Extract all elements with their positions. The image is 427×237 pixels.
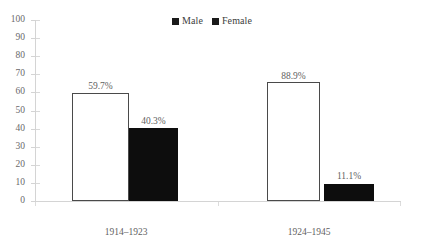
y-tick-inner-30 (36, 147, 40, 148)
y-tick-inner-60 (36, 92, 40, 93)
bar-label-female-1924-1945: 11.1% (337, 172, 361, 182)
category-separator-2 (218, 202, 219, 206)
bar-label-male-1924-1945: 88.9% (281, 72, 306, 82)
bar-male-1914-1923[interactable]: 59.7% (72, 93, 129, 201)
y-tick-inner-20 (36, 165, 40, 166)
x-axis-label-1914-1923: 1914–1923 (105, 228, 148, 237)
y-tick-inner-40 (36, 129, 40, 130)
bar-chart: Male Female 100 90 80 70 60 (0, 0, 427, 237)
x-axis-label-1924-1945: 1924–1945 (288, 228, 331, 237)
y-tick-label-90: 90 (16, 33, 26, 43)
y-tick-label-40: 40 (16, 124, 26, 134)
y-tick-inner-10 (36, 183, 40, 184)
y-tick-label-70: 70 (16, 70, 26, 80)
y-tick-inner-50 (36, 111, 40, 112)
y-tick-label-100: 100 (11, 15, 25, 25)
category-separator-3 (400, 202, 401, 206)
y-tick-label-30: 30 (16, 142, 26, 152)
plot-area: 100 90 80 70 60 50 40 30 (35, 20, 401, 202)
y-tick-inner-100 (36, 20, 40, 21)
bar-female-1924-1945[interactable]: 11.1% (324, 184, 374, 201)
bar-label-female-1914-1923: 40.3% (141, 117, 166, 127)
y-tick-label-0: 0 (20, 196, 25, 206)
y-tick-inner-90 (36, 38, 40, 39)
bar-label-male-1914-1923: 59.7% (88, 82, 113, 92)
y-tick-label-10: 10 (16, 178, 26, 188)
y-tick-label-80: 80 (16, 51, 26, 61)
y-tick-label-50: 50 (16, 106, 26, 116)
y-tick-label-60: 60 (16, 88, 26, 98)
bar-male-1924-1945[interactable]: 88.9% (267, 82, 320, 201)
category-separator-1 (35, 202, 36, 206)
y-tick-label-20: 20 (16, 160, 26, 170)
y-tick-inner-80 (36, 56, 40, 57)
bar-female-1914-1923[interactable]: 40.3% (129, 128, 178, 201)
y-tick-inner-70 (36, 74, 40, 75)
